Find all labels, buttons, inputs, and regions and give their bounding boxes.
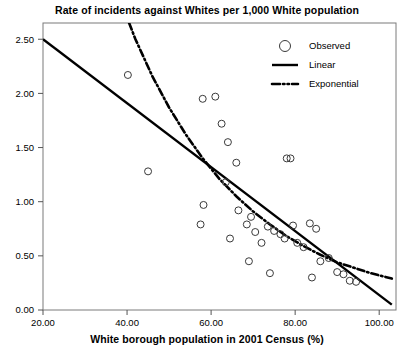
x-axis-label: White borough population in 2001 Census … [0,333,414,345]
data-point [317,258,324,265]
data-point [233,159,240,166]
y-tick-label: 1.00 [16,196,35,207]
data-point [248,213,255,220]
data-point [258,239,265,246]
y-tick-label: 1.50 [16,142,35,153]
data-point [308,274,315,281]
scatter-plot: 0.000.501.001.502.002.5020.0040.0060.008… [0,0,414,357]
legend-label: Observed [309,40,350,51]
x-tick-label: 100.00 [365,317,394,328]
data-point [245,258,252,265]
data-point [224,139,231,146]
chart-container: Rate of incidents against Whites per 1,0… [0,0,414,357]
data-point [266,270,273,277]
data-point [227,235,234,242]
data-point [313,225,320,232]
data-point [200,201,207,208]
data-point [124,71,131,78]
y-tick-label: 2.00 [16,88,35,99]
data-point [235,207,242,214]
data-point [252,229,259,236]
data-point [199,95,206,102]
legend: ObservedLinearExponential [272,40,359,89]
data-point [212,93,219,100]
data-point [353,278,360,285]
data-point [346,277,353,284]
exponential-trend-line [119,0,392,279]
x-tick-label: 60.00 [199,317,223,328]
legend-label: Exponential [309,78,359,89]
data-point [306,220,313,227]
legend-label: Linear [309,59,335,70]
x-tick-label: 20.00 [31,317,55,328]
data-point [340,271,347,278]
y-tick-label: 0.00 [16,304,35,315]
x-tick-label: 80.00 [283,317,307,328]
x-tick-label: 40.00 [115,317,139,328]
data-point [145,168,152,175]
data-point [218,120,225,127]
data-point [197,221,204,228]
y-tick-label: 2.50 [16,34,35,45]
y-tick-label: 0.50 [16,250,35,261]
data-point [243,221,250,228]
legend-marker-observed [280,41,291,52]
